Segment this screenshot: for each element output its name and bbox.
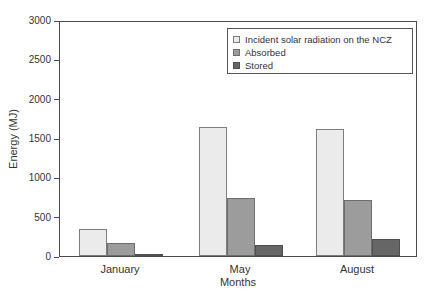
legend-swatch-icon [233, 49, 240, 56]
y-tick-label: 1000 [11, 172, 51, 184]
plot-area: Incident solar radiation on the NCZAbsor… [59, 21, 417, 257]
y-tick-label: 3000 [11, 15, 51, 27]
legend-swatch-icon [233, 62, 240, 69]
bar-august-stored [372, 239, 400, 256]
legend-label: Absorbed [245, 47, 286, 58]
bar-january-incident-solar-radiation-on-the-ncz [79, 229, 107, 256]
legend-item-absorbed: Absorbed [233, 46, 412, 58]
bar-january-absorbed [107, 243, 135, 256]
y-tick-label: 2000 [11, 94, 51, 106]
legend: Incident solar radiation on the NCZAbsor… [227, 28, 413, 74]
legend-swatch-icon [233, 36, 240, 43]
x-tick-label-january: January [100, 263, 139, 276]
legend-label: Incident solar radiation on the NCZ [245, 34, 392, 45]
x-axis-title: Months [220, 276, 256, 288]
bar-august-incident-solar-radiation-on-the-ncz [316, 129, 344, 256]
y-tick-label: 0 [11, 251, 51, 263]
x-tick-label-may: May [230, 263, 251, 276]
y-tick-label: 500 [11, 212, 51, 224]
bar-may-stored [255, 245, 283, 256]
bar-may-incident-solar-radiation-on-the-ncz [199, 127, 227, 256]
bar-may-absorbed [227, 198, 255, 257]
x-tick-label-august: August [340, 263, 374, 276]
bar-january-stored [135, 254, 163, 256]
legend-item-stored: Stored [233, 59, 412, 71]
y-tick-label: 1500 [11, 133, 51, 145]
y-tick-label: 2500 [11, 54, 51, 66]
legend-label: Stored [245, 60, 273, 71]
chart-figure: Energy (MJ) 050010001500200025003000 Inc… [0, 0, 435, 300]
bar-august-absorbed [344, 200, 372, 256]
legend-item-incident-solar-radiation-on-the-ncz: Incident solar radiation on the NCZ [233, 33, 412, 45]
